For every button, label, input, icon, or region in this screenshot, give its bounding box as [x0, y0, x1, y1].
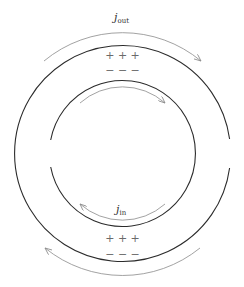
- outer-ring: [15, 46, 230, 262]
- bottom-plus-charges: + + +: [105, 232, 140, 245]
- j-out-label: jout: [111, 11, 129, 25]
- top-plus-charges: + + +: [105, 49, 140, 62]
- j-in-label: jin: [113, 203, 127, 217]
- bottom-minus-charges: − − −: [105, 248, 140, 261]
- inner-ring: [51, 81, 196, 227]
- top-minus-charges: − − −: [105, 64, 140, 77]
- split-ring-diagram: jout jin + + + − − − + + + − − −: [0, 0, 244, 287]
- inner-top-current-arrow: [80, 87, 165, 103]
